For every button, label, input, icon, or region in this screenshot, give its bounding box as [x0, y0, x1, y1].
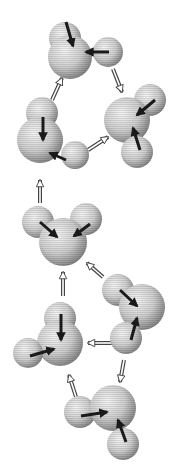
atom-shading — [90, 385, 136, 431]
molecules — [13, 22, 166, 460]
hydrogen-bond-arrow-icon — [52, 78, 62, 100]
molecule — [104, 84, 166, 168]
hydrogen-bond-arrow-icon — [87, 263, 103, 277]
molecule — [17, 97, 89, 169]
atom-shading — [61, 141, 89, 169]
hydrogen-bond-arrow-icon — [69, 375, 76, 397]
hydrogen-bond-arrow-icon — [120, 360, 124, 382]
atom-shading — [104, 97, 150, 143]
molecule-diagram — [0, 0, 178, 464]
atom-shading — [48, 35, 92, 79]
hydrogen-bond-arrow-icon — [88, 137, 108, 150]
atom-shading — [110, 322, 142, 354]
molecule — [13, 302, 83, 368]
diagram-canvas — [0, 0, 178, 464]
hydrogen-bond-arrow-icon — [113, 69, 122, 92]
atom-shading — [39, 218, 87, 266]
molecule — [22, 203, 102, 266]
molecule — [102, 274, 165, 354]
